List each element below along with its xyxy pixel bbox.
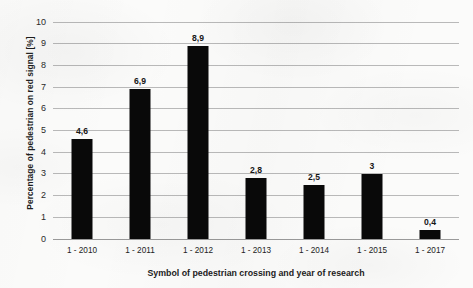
bar	[188, 46, 209, 239]
plot-area: 0123456789104,61 - 20106,91 - 20118,91 -…	[53, 22, 459, 239]
bar-value-label: 4,6	[76, 126, 88, 136]
bar-group: 2,51 - 2014	[285, 22, 343, 239]
bar-group: 6,91 - 2011	[111, 22, 169, 239]
bar-value-label: 8,9	[192, 33, 204, 43]
bar-group: 2,81 - 2013	[227, 22, 285, 239]
bar	[304, 185, 325, 239]
y-tick-label: 1	[41, 212, 46, 222]
bar-value-label: 2,8	[250, 165, 262, 175]
bar	[246, 178, 267, 239]
y-tick-label: 3	[41, 168, 46, 178]
bar	[130, 89, 151, 239]
y-axis-title: Percentage of pedestrian on red signal […	[25, 14, 35, 232]
x-axis-title: Symbol of pedestrian crossing and year o…	[53, 268, 459, 278]
bar-group: 4,61 - 2010	[53, 22, 111, 239]
bar-group: 0,41 - 2017	[401, 22, 459, 239]
x-tick-label: 1 - 2014	[299, 246, 329, 255]
y-tick-label: 4	[41, 147, 46, 157]
bar-chart-figure: Percentage of pedestrian on red signal […	[0, 0, 473, 288]
bar-value-label: 0,4	[424, 217, 436, 227]
bar-value-label: 3	[370, 161, 375, 171]
y-tick-label: 0	[41, 234, 46, 244]
bar-group: 8,91 - 2012	[169, 22, 227, 239]
bar-group: 31 - 2015	[343, 22, 401, 239]
x-tick-label: 1 - 2011	[125, 246, 154, 255]
y-tick-label: 8	[41, 60, 46, 70]
bar	[420, 230, 441, 239]
x-tick-label: 1 - 2017	[415, 246, 445, 255]
y-tick-label: 10	[36, 17, 46, 27]
x-tick-label: 1 - 2010	[67, 246, 97, 255]
x-tick-label: 1 - 2012	[183, 246, 213, 255]
bar-value-label: 2,5	[308, 172, 320, 182]
x-tick-label: 1 - 2013	[241, 246, 271, 255]
bar	[72, 139, 93, 239]
y-tick-label: 6	[41, 103, 46, 113]
bar-value-label: 6,9	[134, 76, 146, 86]
y-tick-label: 2	[41, 190, 46, 200]
y-tick-label: 9	[41, 38, 46, 48]
y-tick-label: 5	[41, 125, 46, 135]
bar	[362, 174, 383, 239]
x-tick-label: 1 - 2015	[357, 246, 387, 255]
y-tick-label: 7	[41, 82, 46, 92]
